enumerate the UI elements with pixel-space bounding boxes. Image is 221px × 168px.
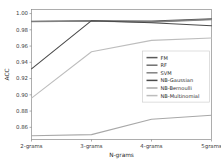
y-axis-title: ACC [4,69,10,81]
y-tick-label: 0.86 [16,124,29,130]
x-tick-label: 5grams [201,143,221,150]
legend-label-nb-multinomial: NB-Multinomial [161,93,200,99]
legend-label-fm: FM [161,55,168,61]
y-tick-label: 1.00 [16,10,29,16]
legend-label-nb-gaussian: NB-Gaussian [161,77,194,83]
legend-label-nb-bernoulli: NB-Bernoulli [161,85,192,91]
y-tick-label: 0.88 [16,108,29,114]
legend-label-svm: SVM [161,70,172,76]
y-tick-label: 0.90 [16,92,29,98]
y-tick-label: 0.96 [16,43,29,49]
x-tick-label: 3-grams [80,143,103,150]
line-chart: 1.000.980.960.940.920.900.880.862-grams3… [0,0,221,168]
x-tick-label: 4-grams [140,143,163,150]
y-tick-label: 0.92 [16,75,28,81]
x-tick-label: 2-grams [20,143,43,150]
legend-label-rf: RF [161,62,168,68]
x-axis-title: N-grams [109,152,134,159]
y-tick-label: 0.94 [16,59,29,65]
y-tick-label: 0.98 [16,27,29,33]
chart-figure: 1.000.980.960.940.920.900.880.862-grams3… [0,0,221,168]
